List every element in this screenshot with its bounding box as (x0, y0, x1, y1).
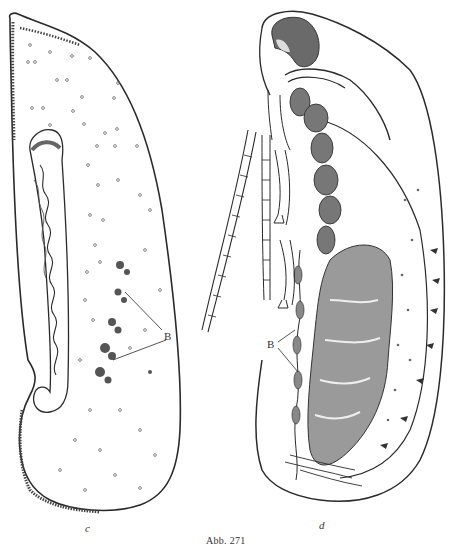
figure-d-label: d (319, 519, 325, 531)
figure-caption: Abb. 271 (206, 535, 246, 546)
illustration-plate (0, 0, 449, 550)
figure-c-annotation-b: B (164, 330, 171, 342)
figure-d-annotation-b: B (267, 338, 274, 350)
figure-c-drawing (10, 13, 181, 512)
figure-c-label: c (85, 522, 90, 534)
figure-d-drawing (202, 11, 444, 501)
